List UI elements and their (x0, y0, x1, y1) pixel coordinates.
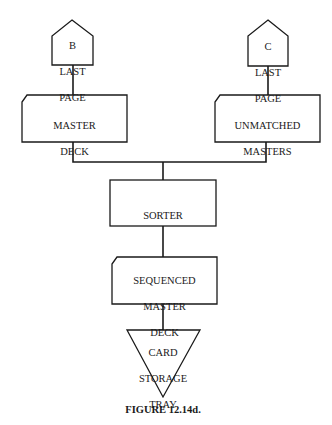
tray-line1: CARD (123, 346, 203, 359)
b-last-page-label: B LAST PAGE (52, 26, 93, 117)
b-letter: B (52, 39, 93, 52)
sorter-label: SORTER (110, 196, 216, 235)
figure-caption: FIGURE 12.14d. (100, 404, 226, 415)
unmatched-masters-label: UNMATCHED MASTERS (215, 106, 320, 171)
b-last-text: LAST (52, 65, 93, 78)
master-deck-line2: DECK (22, 145, 127, 158)
tray-line2: STORAGE (123, 372, 203, 385)
c-letter: C (248, 40, 288, 53)
master-deck-label: MASTER DECK (22, 106, 127, 171)
c-last-text: LAST (248, 66, 288, 79)
c-page-text: PAGE (248, 92, 288, 105)
master-deck-line1: MASTER (22, 119, 127, 132)
sorter-text: SORTER (110, 209, 216, 222)
b-page-text: PAGE (52, 91, 93, 104)
sequenced-line2: MASTER (112, 300, 217, 313)
unmatched-masters-line2: MASTERS (215, 145, 320, 158)
unmatched-masters-line1: UNMATCHED (215, 119, 320, 132)
c-last-page-label: C LAST PAGE (248, 27, 288, 118)
sequenced-line1: SEQUENCED (112, 274, 217, 287)
